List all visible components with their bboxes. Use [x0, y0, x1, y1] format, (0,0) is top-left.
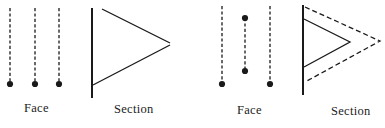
right-face-drawing — [219, 6, 273, 87]
point-dot — [267, 81, 273, 87]
section-solid-wedge — [93, 45, 170, 85]
point-dot — [242, 15, 248, 21]
left-section-drawing — [92, 8, 170, 98]
left-face-label: Face — [24, 102, 49, 115]
right-section-label: Section — [331, 105, 371, 118]
section-solid-wedge — [304, 19, 350, 67]
diagram-canvas — [0, 0, 385, 128]
point-dot — [242, 68, 248, 74]
section-solid-wedge — [102, 9, 170, 43]
right-face-label: Face — [237, 104, 262, 117]
right-section-drawing — [303, 5, 380, 95]
point-dot — [219, 81, 225, 87]
left-face-drawing — [7, 8, 62, 87]
section-dashed-wedge — [305, 7, 380, 82]
left-section-label: Section — [114, 103, 154, 116]
point-dot — [32, 81, 38, 87]
point-dot — [56, 81, 62, 87]
point-dot — [7, 81, 13, 87]
